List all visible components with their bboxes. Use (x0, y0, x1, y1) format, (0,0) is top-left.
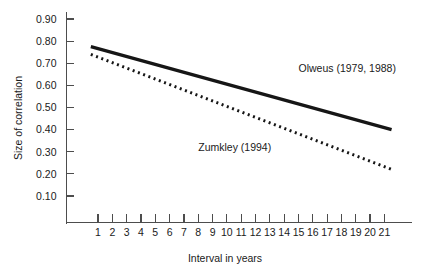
x-tick-label: 5 (152, 226, 158, 238)
x-tick-label: 21 (379, 226, 391, 238)
x-tick-label: 12 (250, 226, 262, 238)
x-tick-label: 4 (138, 226, 144, 238)
y-tick-label: 0.10 (36, 190, 57, 202)
x-tick-label: 3 (124, 226, 130, 238)
chart-canvas: 0.900.800.700.600.500.400.300.200.10 123… (0, 0, 437, 273)
y-axis-title: Size of correlation (12, 76, 24, 160)
series-label: Zumkley (1994) (198, 141, 271, 153)
x-tick-label: 20 (364, 226, 376, 238)
x-tick-label: 2 (109, 226, 115, 238)
y-tick-label: 0.50 (36, 101, 57, 113)
x-tick-label: 17 (321, 226, 333, 238)
x-axis-title: Interval in years (188, 252, 262, 264)
y-tick-label: 0.70 (36, 57, 57, 69)
x-tick-label: 1 (95, 226, 101, 238)
x-tick-label: 9 (210, 226, 216, 238)
y-tick-label: 0.90 (36, 13, 57, 25)
x-tick-label: 10 (221, 226, 233, 238)
series-line-solid (91, 47, 392, 130)
x-tick-label: 18 (336, 226, 348, 238)
x-tick-label: 15 (293, 226, 305, 238)
y-tick-label: 0.60 (36, 79, 57, 91)
series-label: Olweus (1979, 1988) (298, 62, 395, 74)
y-tick-label: 0.30 (36, 146, 57, 158)
y-tick-label: 0.40 (36, 123, 57, 135)
y-tick-label: 0.80 (36, 35, 57, 47)
y-tick-label: 0.20 (36, 168, 57, 180)
chart-figure: 0.900.800.700.600.500.400.300.200.10 123… (0, 0, 437, 273)
x-tick-label: 14 (278, 226, 290, 238)
x-tick-label: 6 (167, 226, 173, 238)
x-axis: 123456789101112131415161718192021 (66, 214, 413, 238)
x-tick-label: 19 (350, 226, 362, 238)
y-axis: 0.900.800.700.600.500.400.300.200.10 (36, 12, 73, 224)
x-tick-label: 13 (264, 226, 276, 238)
x-tick-label: 16 (307, 226, 319, 238)
x-tick-label: 11 (236, 226, 247, 238)
x-tick-label: 7 (181, 226, 187, 238)
x-tick-label: 8 (195, 226, 201, 238)
